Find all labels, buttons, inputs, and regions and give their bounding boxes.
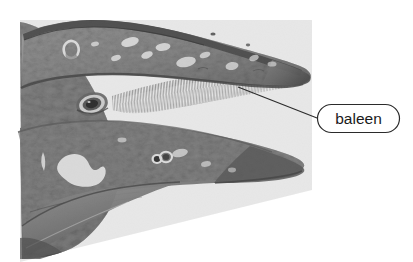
baleen-callout-label: baleen bbox=[335, 110, 382, 127]
whale-baleen-figure: baleen bbox=[0, 0, 413, 262]
whale-illustration: baleen bbox=[0, 0, 413, 262]
baleen-callout[interactable]: baleen bbox=[318, 105, 400, 133]
